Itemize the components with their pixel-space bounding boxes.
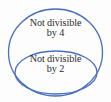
outer-set-label-line2: by 4: [0, 28, 111, 38]
diagram-canvas: Not divisible by 4 Not divisible by 2: [0, 0, 111, 102]
inner-set-label: Not divisible by 2: [0, 54, 111, 75]
inner-set-label-line2: by 2: [0, 64, 111, 74]
outer-set-label: Not divisible by 4: [0, 18, 111, 39]
set-diagram-svg: [0, 0, 111, 102]
